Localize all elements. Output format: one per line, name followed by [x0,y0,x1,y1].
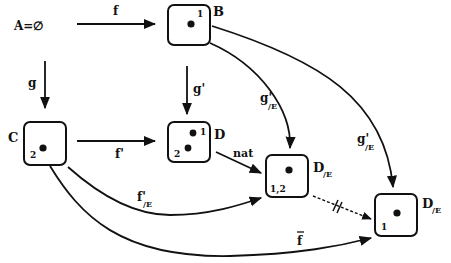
label-f-bar: f [297,232,304,248]
svg-text:1: 1 [197,9,203,19]
svg-text:1: 1 [200,127,206,137]
svg-text:A=∅: A=∅ [13,19,43,33]
label-g-prime-E-2: g' /E [357,132,374,152]
svg-text:1,2: 1,2 [270,184,286,195]
label-f: f [113,4,119,18]
svg-text:1: 1 [381,222,387,232]
svg-text:f: f [297,234,303,248]
svg-text:/E: /E [432,205,441,215]
point-icon [185,145,192,152]
svg-text:C: C [8,130,18,145]
svg-text:B: B [213,4,224,19]
label-f-prime: f' [115,147,124,161]
point-icon [39,144,46,151]
label-g: g [28,76,37,90]
node-C: 2 C [8,122,66,165]
node-D-E-2: 1 D /E [375,194,441,236]
point-icon [187,20,194,27]
label-g-prime-E-1: g' /E [260,91,277,111]
svg-text:/E: /E [143,199,152,209]
label-g-prime: g' [193,82,205,96]
label-f-prime-E: f' /E [137,190,152,209]
node-D: 1 2 D [168,122,225,162]
svg-text:D: D [214,127,225,142]
point-icon [285,166,292,173]
node-B: 1 B [168,4,224,45]
edge-f-prime-E [68,167,261,215]
node-A: A=∅ [13,19,43,33]
node-D-E-1: 1,2 D /E [266,155,332,197]
point-icon [393,209,400,216]
svg-text:/E: /E [323,169,332,179]
edge-dashed-crossed [313,196,371,219]
diagram-canvas: A=∅ 1 B 2 C 1 2 D 1,2 D /E 1 D /E f g g'… [0,0,451,263]
point-icon [190,130,197,137]
svg-text:2: 2 [30,150,36,160]
label-nat: nat [233,147,254,160]
svg-text:/E: /E [268,101,277,111]
svg-text:/E: /E [365,142,374,152]
svg-text:2: 2 [174,149,180,159]
